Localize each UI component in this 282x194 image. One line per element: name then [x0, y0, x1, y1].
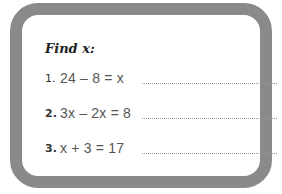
worksheet-card: Find x: 1. 24 – 8 = x 2. 3x – 2x = 8 3. … [10, 3, 272, 188]
problem-number: 1. [45, 72, 60, 85]
worksheet-title: Find x: [45, 41, 95, 56]
answer-line[interactable] [142, 118, 277, 119]
answer-line[interactable] [142, 153, 277, 154]
problem-equation: x + 3 = 17 [60, 140, 124, 156]
problem-equation: 24 – 8 = x [60, 70, 124, 86]
problem-1: 1. 24 – 8 = x [45, 69, 265, 87]
answer-line[interactable] [142, 83, 277, 84]
problem-number: 2. [45, 107, 60, 120]
problem-3: 3. x + 3 = 17 [45, 139, 265, 157]
problem-equation: 3x – 2x = 8 [60, 105, 131, 121]
problem-number: 3. [45, 142, 60, 155]
problem-2: 2. 3x – 2x = 8 [45, 104, 265, 122]
